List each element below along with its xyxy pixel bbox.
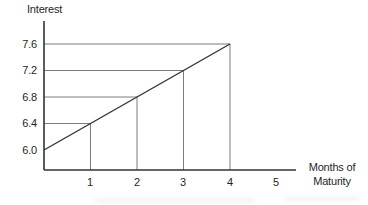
y-tick-label: 7.6 [8, 38, 37, 51]
x-axis-title-line2: Maturity [300, 174, 364, 188]
x-tick-label: 4 [220, 176, 240, 189]
x-tick-label: 3 [173, 176, 193, 189]
y-tick-label: 6.4 [8, 117, 37, 130]
interest-vs-maturity-figure: Interest 7.6 7.2 6.8 6.4 6.0 1 2 3 4 5 M… [0, 0, 368, 205]
scan-smudge [285, 197, 360, 200]
x-tick-label: 2 [127, 176, 147, 189]
y-tick-label: 7.2 [8, 64, 37, 77]
x-axis-title-line1: Months of [300, 160, 364, 174]
scan-smudge [95, 199, 255, 202]
x-axis-title: Months of Maturity [300, 160, 364, 188]
x-tick-label: 5 [266, 176, 286, 189]
y-tick-label: 6.0 [8, 144, 37, 157]
x-tick-label: 1 [80, 176, 100, 189]
y-tick-label: 6.8 [8, 91, 37, 104]
